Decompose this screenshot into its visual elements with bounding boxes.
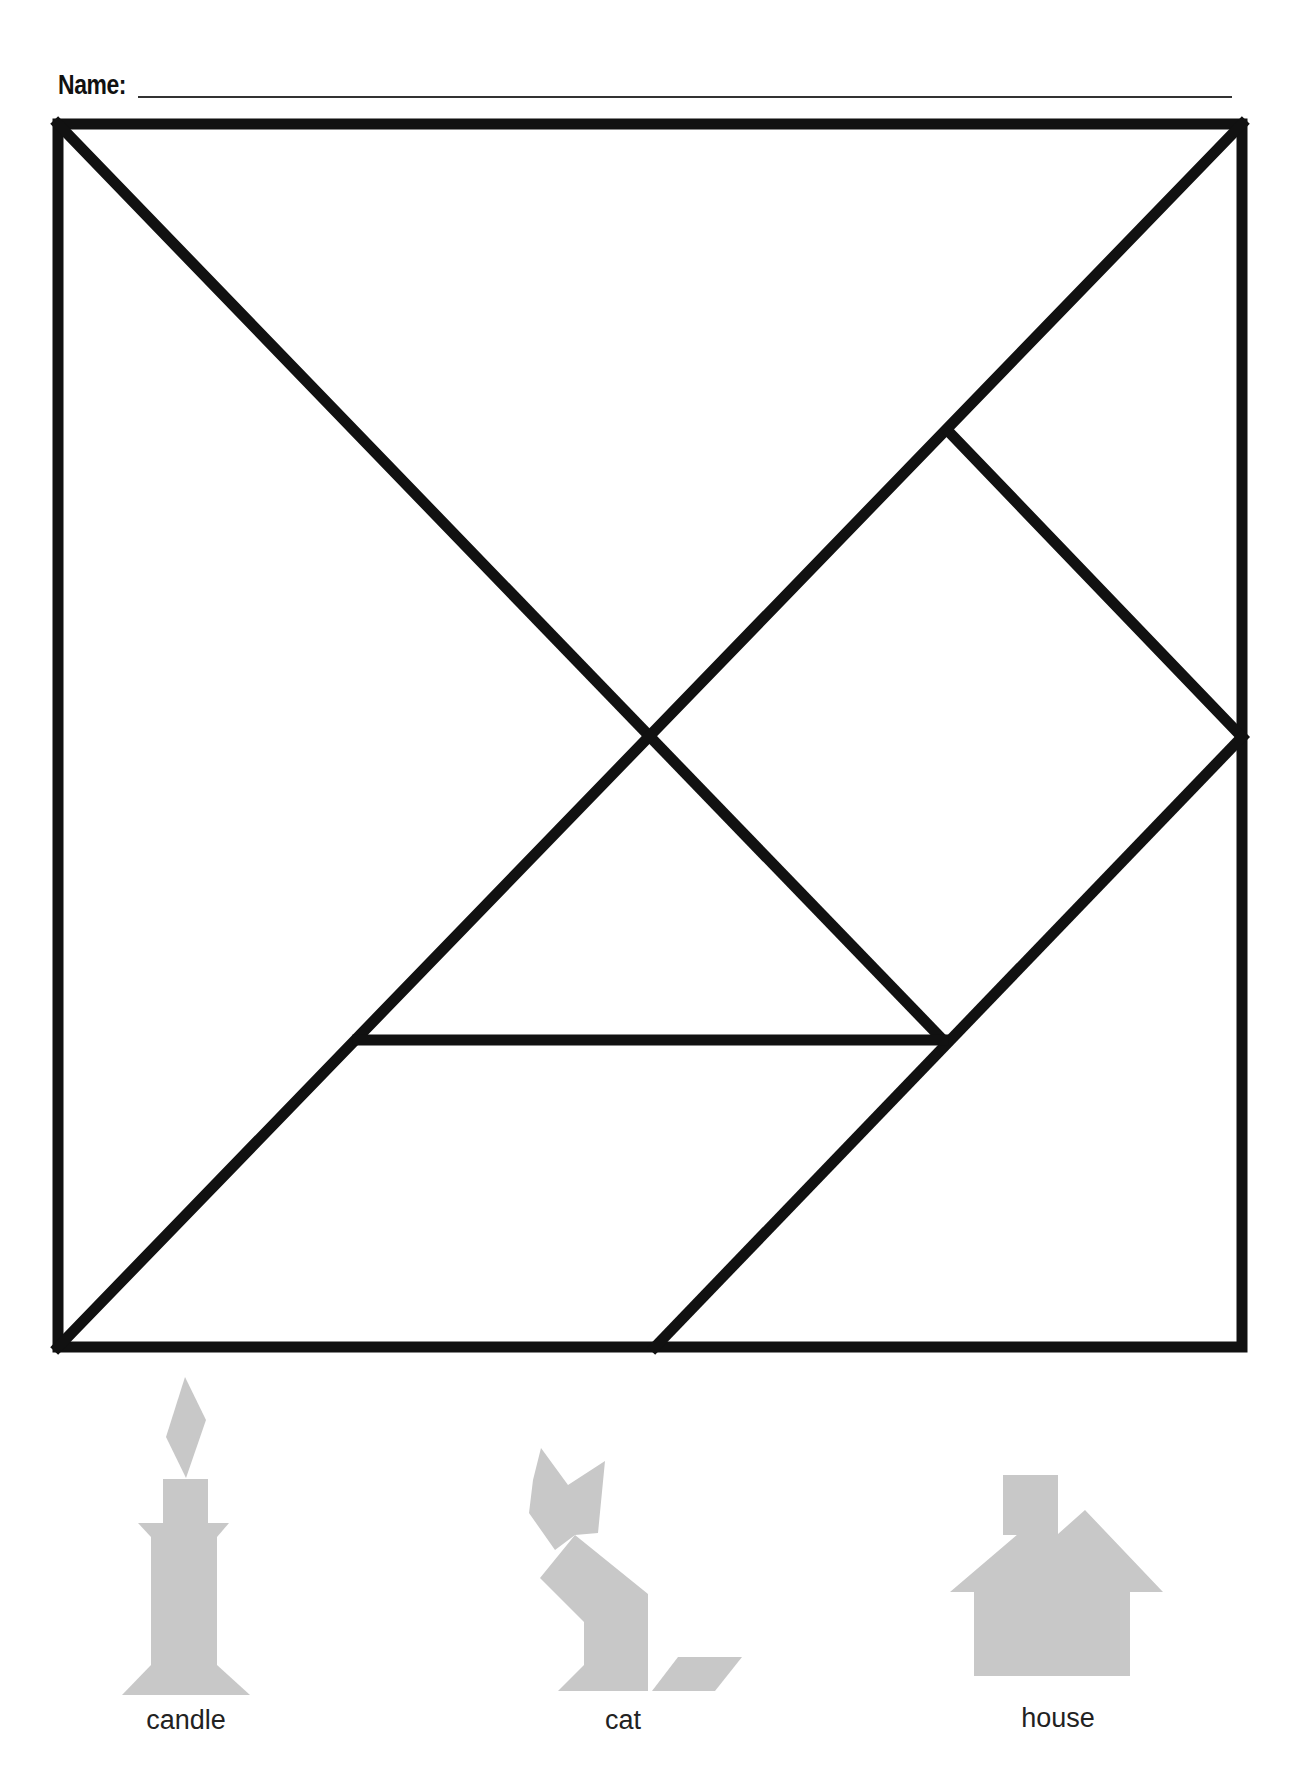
cat-body (540, 1535, 648, 1691)
cat-figure (529, 1448, 742, 1691)
diagonal-line-main (58, 124, 943, 1040)
house-label: house (958, 1703, 1158, 1734)
candle-base (122, 1665, 250, 1695)
candle-flame (166, 1377, 206, 1478)
tangram-worksheet (0, 0, 1305, 1770)
house-body (974, 1591, 1130, 1676)
candle-top (163, 1479, 208, 1524)
cat-label: cat (523, 1705, 723, 1736)
house-figure (950, 1475, 1163, 1676)
candle-label: candle (86, 1705, 286, 1736)
cat-head (529, 1448, 605, 1550)
candle-body (151, 1523, 217, 1666)
square-edge-upper (950, 433, 1242, 737)
cat-tail (652, 1657, 742, 1691)
house-chimney (1003, 1475, 1058, 1535)
candle-figure (122, 1377, 250, 1695)
